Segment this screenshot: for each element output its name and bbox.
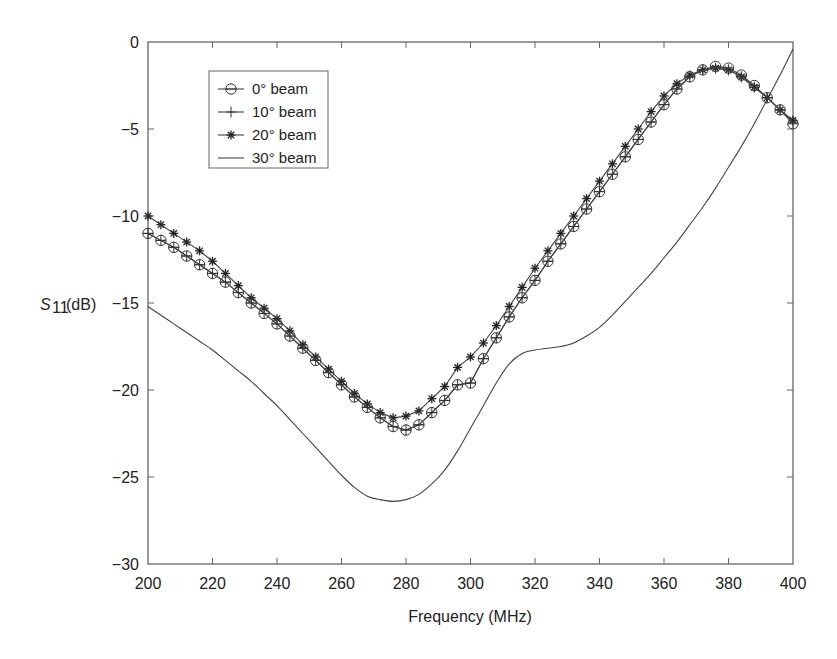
chart: 200220240260280300320340360380400 0−5−10… (0, 0, 837, 659)
data-point-marker (518, 283, 527, 292)
y-axis-title-unit: (dB) (66, 296, 96, 313)
x-tick-label: 400 (780, 575, 807, 592)
x-tick-label: 200 (135, 575, 162, 592)
y-tick-label: 0 (130, 34, 139, 51)
data-point-marker (543, 246, 552, 255)
data-point-marker (724, 64, 734, 75)
x-tick-label: 380 (715, 575, 742, 592)
data-point-marker (402, 412, 411, 421)
data-point-marker (466, 352, 475, 361)
legend-label: 20° beam (252, 126, 316, 143)
data-point-marker (169, 229, 178, 238)
y-tick-label: −25 (112, 469, 139, 486)
legend-label: 30° beam (252, 149, 316, 166)
x-tick-label: 300 (457, 575, 484, 592)
legend-marker-icon (227, 131, 236, 140)
data-point-marker (144, 212, 153, 221)
y-tick-label: −30 (112, 556, 139, 573)
x-tick-label: 220 (199, 575, 226, 592)
y-tick-label: −15 (112, 295, 139, 312)
data-point-marker (182, 238, 191, 247)
data-point-marker (711, 63, 721, 74)
data-point-marker (453, 363, 462, 372)
x-tick-label: 360 (651, 575, 678, 592)
x-tick-label: 280 (393, 575, 420, 592)
data-point-marker (556, 229, 565, 238)
data-point-marker (621, 142, 630, 151)
y-axis-title-symbol: S (40, 296, 51, 313)
x-tick-label: 260 (328, 575, 355, 592)
data-point-marker (492, 321, 501, 330)
x-axis-title: Frequency (MHz) (408, 608, 532, 625)
data-point-marker (479, 339, 488, 348)
data-point-marker (569, 212, 578, 221)
data-point-marker (647, 107, 656, 116)
data-point-marker (582, 194, 591, 203)
y-tick-label: −5 (121, 121, 139, 138)
data-point-marker (156, 220, 165, 229)
data-point-marker (531, 264, 540, 273)
data-point-marker (440, 382, 449, 391)
x-tick-label: 340 (586, 575, 613, 592)
y-axis-title: S 11 (dB) (40, 296, 96, 316)
data-point-marker (195, 246, 204, 255)
y-tick-label: −20 (112, 382, 139, 399)
data-point-marker (505, 302, 514, 311)
data-point-marker (414, 406, 423, 415)
legend: 0° beam10° beam20° beam30° beam (209, 71, 328, 168)
legend-label: 10° beam (252, 103, 316, 120)
data-point-marker (608, 159, 617, 168)
data-point-marker (634, 125, 643, 134)
data-point-marker (749, 82, 759, 93)
x-tick-label: 240 (264, 575, 291, 592)
x-tick-label: 320 (522, 575, 549, 592)
data-point-marker (208, 257, 217, 266)
legend-label: 0° beam (252, 80, 308, 97)
y-tick-label: −10 (112, 208, 139, 225)
data-point-marker (427, 394, 436, 403)
data-point-marker (595, 177, 604, 186)
